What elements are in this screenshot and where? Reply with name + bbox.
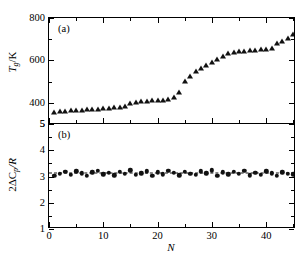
y-minor-tick [49,216,52,217]
data-point-circle [107,171,111,175]
x-minor-tick [130,224,131,227]
x-tick-label: 0 [46,231,51,242]
y-tick-label: 600 [29,55,45,66]
x-tick-top [212,18,213,23]
data-point-triangle [182,78,188,83]
figure-canvas: (a) 4006008005 Tg/K (b) 12345010203040 2… [0,0,307,258]
data-point-circle [161,172,165,176]
y-tick [49,150,54,151]
data-point-circle [286,172,290,176]
panel-a-axes: (a) 4006008005 [48,17,295,123]
y-tick-label: 800 [29,13,45,24]
panel-b-y-axis-title: 2ΔCp/R [6,158,20,192]
data-point-circle [134,173,138,177]
x-minor-tick-top [76,18,77,21]
data-point-circle [226,172,230,176]
y-tick [49,124,54,125]
y-tick [289,177,294,178]
y-minor-tick [49,39,52,40]
data-point-circle [204,171,208,175]
y-minor-tick [49,163,52,164]
x-minor-tick-top [293,18,294,21]
data-point-triangle [290,31,294,36]
x-tick-label: 30 [207,231,218,242]
data-point-circle [85,174,89,178]
y-minor-tick [291,39,294,40]
panel-b-axes: (b) 12345010203040 [48,123,295,228]
y-minor-tick [291,137,294,138]
panel-a-y-axis-title: Tg/K [6,51,20,72]
y-tick [289,103,294,104]
x-tick [158,222,159,227]
x-tick [266,222,267,227]
data-point-triangle [171,94,177,99]
data-point-circle [183,170,187,174]
data-point-triangle [269,46,275,51]
data-point-circle [193,173,197,177]
data-point-triangle [187,73,193,78]
data-point-circle [63,170,67,174]
data-point-circle [215,174,219,178]
data-point-circle [259,173,263,177]
y-tick-label: 400 [29,98,45,109]
data-point-circle [90,170,94,174]
y-tick [49,60,54,61]
x-tick-label: 40 [261,231,272,242]
y-minor-tick [49,137,52,138]
y-tick-label: 3 [40,171,45,182]
data-point-circle [123,172,127,176]
data-point-circle [237,172,241,176]
y-tick [289,203,294,204]
y-tick [49,103,54,104]
data-point-circle [112,173,116,177]
data-point-circle [280,170,284,174]
x-tick [103,222,104,227]
y-tick [289,150,294,151]
y-minor-tick [291,216,294,217]
data-point-circle [188,172,192,176]
data-point-circle [177,173,181,177]
x-minor-tick-top [239,18,240,21]
y-tick [289,229,294,230]
x-minor-tick [76,224,77,227]
data-point-circle [79,171,83,175]
x-minor-tick [239,224,240,227]
panel-a-plot-area [49,18,294,123]
data-point-circle [117,170,121,174]
y-minor-tick [49,82,52,83]
x-tick-label: 10 [98,231,109,242]
y-minor-tick [49,190,52,191]
x-tick-top [103,18,104,23]
y-tick-label: 5 [40,119,45,130]
x-tick [212,222,213,227]
y-tick [289,60,294,61]
y-minor-tick [291,190,294,191]
y-tick [49,177,54,178]
y-tick-label: 1 [40,224,45,235]
panel-b-plot-area [49,124,294,227]
y-minor-tick [291,82,294,83]
data-point-circle [139,171,143,175]
data-point-circle [69,173,73,177]
data-point-triangle [176,89,182,94]
x-minor-tick-top [130,18,131,21]
data-point-circle [101,172,105,176]
data-point-circle [150,174,154,178]
x-tick-label: 20 [152,231,163,242]
data-point-circle [275,174,279,178]
x-tick [49,222,50,227]
y-tick-label: 4 [40,145,45,156]
y-minor-tick [291,163,294,164]
y-tick-label: 2 [40,198,45,209]
data-point-circle [253,171,257,175]
y-tick [289,124,294,125]
data-point-circle [248,173,252,177]
x-axis-title: N [167,241,174,253]
data-point-circle [58,172,62,176]
data-point-circle [221,170,225,174]
data-point-circle [172,171,176,175]
y-tick [49,203,54,204]
x-tick-top [266,18,267,23]
x-minor-tick [293,224,294,227]
data-point-circle [155,170,159,174]
